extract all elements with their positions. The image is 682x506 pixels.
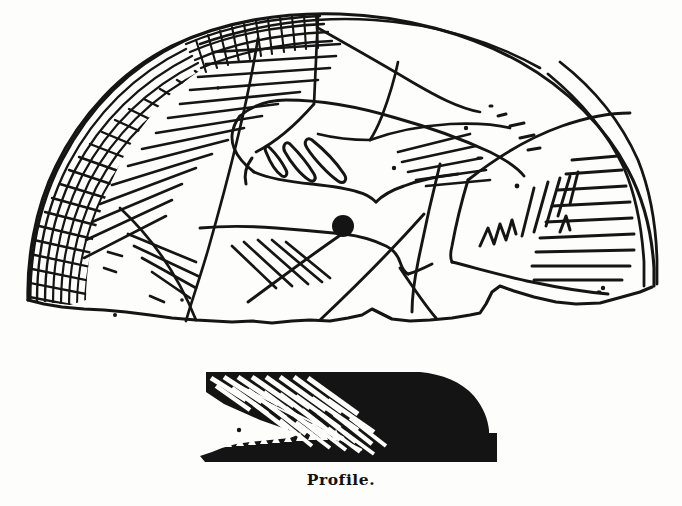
engraving-plate [0, 0, 682, 506]
feather-motif [245, 139, 345, 184]
upper-right-hatching [398, 134, 490, 186]
profile-ink-speck [237, 428, 241, 432]
artifact-broken-edge [28, 286, 652, 323]
face-view [24, 14, 657, 323]
lower-centre-hatching [232, 240, 330, 288]
illustration-svg [0, 0, 682, 506]
profile-view [200, 372, 497, 462]
profile-caption: Profile. [0, 470, 682, 489]
